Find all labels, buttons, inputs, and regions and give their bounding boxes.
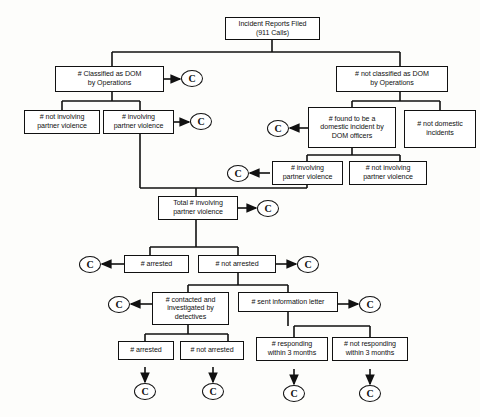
node-not-responding-within-3-months[interactable]: # not responding within 3 months xyxy=(332,337,408,361)
node-arrested-level1[interactable]: # arrested xyxy=(124,255,189,273)
node-line-2: incidents xyxy=(417,129,462,138)
node-line-2: partner violence xyxy=(173,208,223,217)
node-line-2: domestic incident by xyxy=(320,123,383,132)
c-marker-label: C xyxy=(264,203,271,214)
node-line-2: within 3 months xyxy=(268,349,317,358)
node-line-2: within 3 months xyxy=(344,349,396,358)
node-line-1: # not domestic xyxy=(417,120,462,129)
c-marker-not-arrested-level2[interactable]: C xyxy=(202,383,224,400)
node-left-involving-partner-violence[interactable]: # involving partner violence xyxy=(103,110,174,134)
c-marker-responding-within-3-months[interactable]: C xyxy=(283,385,305,402)
node-line-2: by Operations xyxy=(355,79,429,88)
node-line-1: Incident Reports Filed xyxy=(239,20,307,29)
c-marker-right-involving-partner-violence[interactable]: C xyxy=(227,165,249,182)
node-line-1: # contacted and xyxy=(166,296,216,305)
node-right-involving-partner-violence[interactable]: # involving partner violence xyxy=(272,161,343,185)
c-marker-label: C xyxy=(366,299,373,310)
node-not-domestic-incidents[interactable]: # not domestic incidents xyxy=(404,110,476,148)
node-line-1: # responding xyxy=(268,340,317,349)
c-marker-label: C xyxy=(234,168,241,179)
node-line-1: Total # involving xyxy=(173,199,223,208)
c-marker-not-arrested-level1[interactable]: C xyxy=(297,256,319,273)
c-marker-label: C xyxy=(188,73,195,84)
node-line-1: # arrested xyxy=(141,260,172,269)
flowchart-canvas: Incident Reports Filed (911 Calls) # Cla… xyxy=(0,0,480,417)
node-line-3: detectives xyxy=(166,313,216,322)
c-marker-label: C xyxy=(209,386,216,397)
c-marker-label: C xyxy=(290,388,297,399)
node-line-1: # not responding xyxy=(344,340,396,349)
node-line-2: partner violence xyxy=(37,122,87,131)
c-marker-classified-as-dom[interactable]: C xyxy=(181,70,203,87)
c-marker-label: C xyxy=(86,259,93,270)
node-line-1: # Classified as DOM xyxy=(78,70,142,79)
c-marker-contacted-investigated[interactable]: C xyxy=(108,296,130,313)
node-found-to-be-domestic-incident[interactable]: # found to be a domestic incident by DOM… xyxy=(308,107,396,148)
node-line-1: # not arrested xyxy=(190,346,233,355)
node-line-2: partner violence xyxy=(363,173,413,182)
node-not-classified-as-dom[interactable]: # not classified as DOM by Operations xyxy=(336,66,448,92)
node-line-2: (911 Calls) xyxy=(239,29,307,38)
c-marker-label: C xyxy=(197,116,204,127)
c-marker-not-responding-within-3-months[interactable]: C xyxy=(359,385,381,402)
node-line-1: # not arrested xyxy=(215,260,258,269)
c-marker-sent-information-letter[interactable]: C xyxy=(359,296,381,313)
node-sent-information-letter[interactable]: # sent information letter xyxy=(238,292,338,312)
c-marker-label: C xyxy=(115,299,122,310)
node-line-1: # sent information letter xyxy=(252,298,325,307)
node-line-2: investigated by xyxy=(166,304,216,313)
node-line-1: # involving xyxy=(114,113,164,122)
node-contacted-investigated-by-detectives[interactable]: # contacted and investigated by detectiv… xyxy=(152,292,229,325)
node-line-2: partner violence xyxy=(283,173,333,182)
node-right-not-involving-partner-violence[interactable]: # not involving partner violence xyxy=(349,161,427,185)
node-left-not-involving-partner-violence[interactable]: # not involving partner violence xyxy=(24,110,100,134)
node-line-2: partner violence xyxy=(114,122,164,131)
node-total-involving-partner-violence[interactable]: Total # involving partner violence xyxy=(158,196,238,220)
c-marker-left-involving-partner-violence[interactable]: C xyxy=(190,113,212,130)
node-line-3: DOM officers xyxy=(320,132,383,141)
c-marker-label: C xyxy=(366,388,373,399)
node-responding-within-3-months[interactable]: # responding within 3 months xyxy=(256,337,328,361)
node-classified-as-dom[interactable]: # Classified as DOM by Operations xyxy=(55,66,164,92)
c-marker-found-to-be-domestic-incident[interactable]: C xyxy=(267,120,289,137)
c-marker-label: C xyxy=(274,123,281,134)
node-arrested-level2[interactable]: # arrested xyxy=(118,341,174,360)
node-line-1: # arrested xyxy=(130,346,161,355)
node-line-1: # found to be a xyxy=(320,115,383,124)
node-incident-reports-filed[interactable]: Incident Reports Filed (911 Calls) xyxy=(225,17,320,40)
c-marker-total-involving-partner-violence[interactable]: C xyxy=(257,200,279,217)
node-line-1: # involving xyxy=(283,164,333,173)
c-marker-label: C xyxy=(304,259,311,270)
node-line-2: by Operations xyxy=(78,79,142,88)
c-marker-arrested-level1[interactable]: C xyxy=(79,256,101,273)
node-not-arrested-level2[interactable]: # not arrested xyxy=(180,341,244,360)
node-line-1: # not involving xyxy=(37,113,87,122)
c-marker-arrested-level2[interactable]: C xyxy=(134,383,156,400)
node-not-arrested-level1[interactable]: # not arrested xyxy=(198,255,276,273)
node-line-1: # not classified as DOM xyxy=(355,70,429,79)
c-marker-label: C xyxy=(141,386,148,397)
node-line-1: # not involving xyxy=(363,164,413,173)
